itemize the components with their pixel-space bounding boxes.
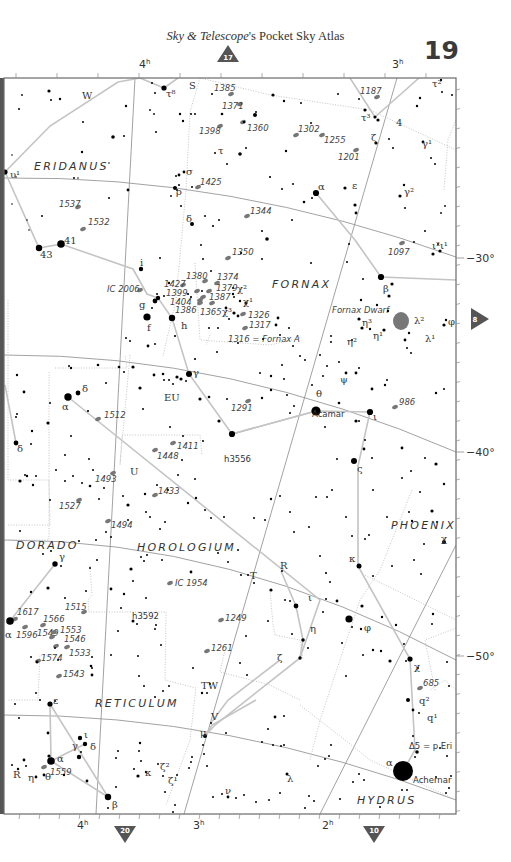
star <box>362 278 364 280</box>
constellation-line <box>5 78 140 172</box>
nav-page-8-button[interactable]: 8 <box>471 308 489 330</box>
constellation-name: ERIDANUS <box>34 160 109 173</box>
star <box>289 600 291 602</box>
deep-sky-label: 1386 <box>175 305 197 315</box>
star <box>289 511 291 513</box>
star <box>322 375 324 377</box>
tick <box>59 814 60 819</box>
star <box>446 755 448 757</box>
galaxy-marker <box>241 325 248 331</box>
star <box>97 364 100 367</box>
constellation-line <box>140 78 178 88</box>
star <box>357 317 360 320</box>
star-designation: τ⁸ <box>166 88 176 99</box>
star <box>432 613 434 615</box>
star <box>194 113 196 115</box>
star <box>381 616 383 618</box>
star <box>343 186 346 189</box>
deep-sky-label: 1344 <box>250 206 272 216</box>
star <box>235 797 237 799</box>
star-designation: η <box>28 772 34 783</box>
star <box>149 109 151 111</box>
nav-page-20-button[interactable]: 20 <box>114 826 136 843</box>
star <box>26 219 28 221</box>
star <box>265 237 269 241</box>
star-designation: σ <box>186 166 193 177</box>
star <box>448 787 450 789</box>
star <box>11 764 13 766</box>
star <box>357 564 362 569</box>
deep-sky-label: 1380 <box>186 271 208 281</box>
star <box>183 171 186 174</box>
star <box>325 572 327 574</box>
star-designation: ζ <box>277 652 283 663</box>
nav-page-17-button[interactable]: 17 <box>217 45 239 62</box>
star <box>64 480 66 482</box>
star <box>217 327 219 329</box>
deep-sky-label: 1493 <box>95 474 117 484</box>
star <box>64 454 66 456</box>
star-designation: γ <box>72 740 78 751</box>
tick <box>319 814 320 819</box>
star <box>401 789 403 791</box>
star <box>60 565 62 567</box>
star <box>408 511 410 513</box>
star-designation: TW <box>201 680 219 691</box>
star <box>353 203 356 206</box>
star-designation: ζ <box>371 132 377 143</box>
star <box>410 352 412 354</box>
star <box>430 509 433 512</box>
galaxy-marker <box>203 648 210 654</box>
star-designation: α <box>318 181 325 192</box>
star-chart: 1385137113601398130212551201118714251344… <box>0 0 511 862</box>
star <box>304 807 306 809</box>
tick <box>359 814 360 819</box>
deep-sky-label: 1411 <box>177 441 199 451</box>
star <box>217 419 220 422</box>
star <box>129 340 131 342</box>
star <box>210 270 212 272</box>
star <box>144 493 146 495</box>
star <box>142 408 144 410</box>
star <box>191 756 193 758</box>
star <box>345 675 347 677</box>
star <box>88 458 90 460</box>
star <box>431 252 434 255</box>
star <box>291 219 293 221</box>
tick <box>259 814 260 819</box>
star <box>338 361 340 363</box>
star <box>16 374 18 376</box>
star-designation: δ <box>17 443 23 454</box>
star-designation: λ² <box>414 315 424 326</box>
star <box>443 483 445 485</box>
star <box>401 447 404 450</box>
nav-page-10-button[interactable]: 10 <box>363 826 385 843</box>
star <box>81 482 83 484</box>
constellation-line <box>5 172 158 298</box>
star <box>232 287 234 289</box>
star <box>160 644 162 646</box>
deep-sky-label: 685 <box>423 678 439 688</box>
star <box>175 375 178 378</box>
star-designation: 4 <box>396 117 402 128</box>
star <box>221 113 224 116</box>
star <box>125 337 127 339</box>
star <box>378 274 384 280</box>
nav-page-number: 17 <box>223 54 233 62</box>
star <box>30 591 32 593</box>
star-designation: ζ¹ <box>168 775 177 786</box>
star <box>386 516 388 518</box>
star <box>281 364 283 366</box>
star <box>187 293 189 295</box>
star <box>419 97 421 99</box>
star-designation: ι <box>308 592 312 603</box>
star <box>162 775 164 777</box>
star <box>330 744 332 746</box>
star <box>195 497 197 499</box>
star <box>127 189 130 192</box>
star <box>228 318 230 320</box>
star-designation: γ <box>59 551 65 562</box>
star <box>24 474 26 476</box>
deep-sky-label: 1543 <box>63 669 85 679</box>
tick <box>439 814 440 819</box>
